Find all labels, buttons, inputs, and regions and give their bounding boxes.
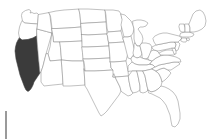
state-mi[interactable] xyxy=(133,20,148,46)
state-fl[interactable] xyxy=(148,86,180,127)
us-map-container xyxy=(0,0,221,139)
state-wa[interactable] xyxy=(22,10,39,25)
state-sd[interactable] xyxy=(81,22,107,35)
state-ri[interactable] xyxy=(187,38,190,41)
state-nj[interactable] xyxy=(175,42,180,51)
us-map-svg xyxy=(0,0,221,139)
state-wy[interactable] xyxy=(52,27,82,42)
state-shapes-group xyxy=(15,9,206,127)
state-ca[interactable] xyxy=(15,36,40,92)
state-ne[interactable] xyxy=(82,34,110,47)
state-ar[interactable] xyxy=(110,61,129,77)
state-ks[interactable] xyxy=(82,46,110,59)
state-me[interactable] xyxy=(189,10,206,32)
scale-bar xyxy=(5,111,7,139)
state-mn[interactable] xyxy=(105,10,123,32)
state-vt[interactable] xyxy=(179,24,185,32)
state-co[interactable] xyxy=(60,41,84,61)
state-ct[interactable] xyxy=(181,38,187,42)
state-wi[interactable] xyxy=(121,14,134,37)
state-nd[interactable] xyxy=(79,9,106,24)
state-ok[interactable] xyxy=(83,58,113,71)
state-ia[interactable] xyxy=(107,31,124,43)
state-ma[interactable] xyxy=(180,32,194,37)
state-mt[interactable] xyxy=(49,9,81,29)
state-nm[interactable] xyxy=(62,60,86,86)
